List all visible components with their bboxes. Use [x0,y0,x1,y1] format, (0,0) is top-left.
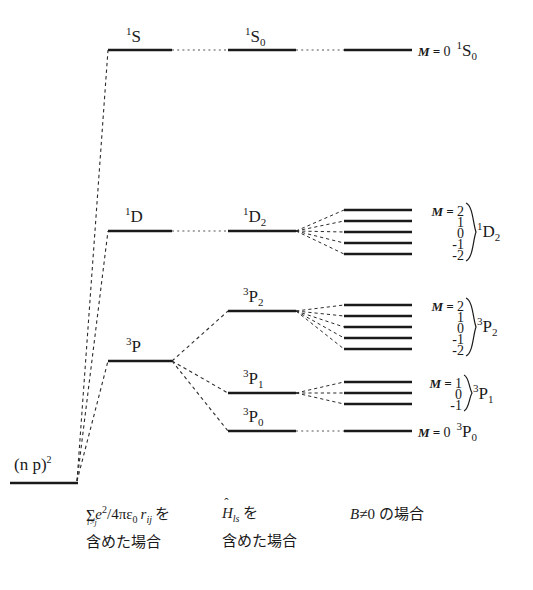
zeeman-fan-1D2-M1 [296,221,344,231]
energy-level-lines [10,50,412,483]
coulomb-r-sub: ij [146,514,152,525]
fine-label-3P1: 3P1 [243,368,263,390]
magnetic-field-B: B [350,506,359,522]
zeeman-1S0-M-prefix: M = [418,44,443,59]
ground-config-exponent: 2 [47,454,52,465]
zeeman-group-label-3P1: 3P1 [473,383,493,405]
zeeman-mcolumn-3P1: M = 1 0 -1 [396,375,462,408]
splitting-line-3P-to-3P2 [172,311,228,361]
hat-accent-icon: ˆ [222,494,231,513]
zeeman-3P2-M-prefix: M = [432,299,457,314]
correlation-dashed-lines [77,50,228,481]
fine-label-1D2: 1D2 [243,206,266,228]
zeeman-1D2-M-value-4: -2 [452,248,464,263]
zeeman-3P1-term-letter: P [479,384,488,403]
term-1S-letter: S [132,27,141,46]
term-label-1D: 1D [125,206,143,225]
zeeman-fan-lines [296,210,344,404]
term-3P-letter: P [132,337,141,356]
zeeman-fan-1D2-M-1 [296,231,344,243]
fine-3P0-letter: P [249,407,258,426]
spin-orbit-caption: ˆHls を 含めた場合 [222,503,297,552]
term-1D-letter: D [131,207,143,226]
splitting-line-3P-to-3P1 [172,361,228,393]
fine-1D2-letter: D [249,207,261,226]
spin-orbit-caption-line1: ˆHls を [222,503,297,527]
spin-orbit-caption-line2: 含めた場合 [222,531,297,553]
zeeman-fan-3P1-M-1 [296,393,344,404]
zeeman-3P2-term-letter: P [483,317,492,336]
zeeman-3P2-M-value-4: -2 [452,343,464,358]
zeeman-mcolumn-1D2: M = 2 1 0 -1 -2 [398,203,464,258]
coulomb-caption-line1: Σi>j e2/4πε0 rij を [86,503,170,528]
coulomb-frac: /4 [107,506,119,522]
zeeman-3P0-M-value: 0 [443,425,450,440]
splitting-line-3P-to-3P0 [172,361,228,431]
zeeman-3P0-M-prefix: M = [418,425,443,440]
brace-3P2 [465,297,477,357]
zeeman-3P0-term-J: 0 [471,431,477,443]
ground-config-text: (n p) [14,455,47,474]
fine-1S0-letter: S [251,27,260,46]
spin-orbit-particle-wo: を [243,505,258,521]
magnetic-field-caption: B≠0 の場合 [350,504,424,526]
fine-3P0-J: 0 [258,416,264,428]
zeeman-fan-3P2-M-2 [296,311,344,349]
hamiltonian-symbol: ˆH [222,503,233,525]
hamiltonian-subscript: ls [233,513,240,524]
zeeman-1S0-M-value: 0 [443,44,450,59]
fine-label-3P2: 3P2 [243,286,263,308]
zeeman-fan-3P2-M2 [296,305,344,311]
magnetic-field-zero: 0 [367,506,375,522]
fine-3P2-letter: P [249,287,258,306]
term-label-1S: 1S [126,26,141,45]
zeeman-label-1S0: M = 01S0 [418,40,477,62]
coulomb-caption-line2: 含めた場合 [86,532,170,554]
fine-3P1-letter: P [249,369,258,388]
ground-configuration-label: (n p)2 [14,455,52,473]
zeeman-1S0-term-J: 0 [471,50,477,62]
magnetic-field-caption-line1: B≠0 の場合 [350,504,424,526]
coulomb-epsilon-sub: 0 [133,514,138,525]
fine-3P1-J: 1 [258,378,264,390]
fine-1S0-J: 0 [260,36,266,48]
zeeman-3P1-M-value-2: -1 [450,398,462,413]
brace-3P1 [463,374,473,412]
correlation-line-ground-to-1S [77,50,108,481]
zeeman-3P2-term-J: 2 [492,326,498,338]
term-label-3P: 3P [126,336,141,355]
fine-label-3P0: 3P0 [243,406,263,428]
summation-symbol: Σi>j [86,504,95,528]
zeeman-fan-1D2-M2 [296,210,344,231]
zeeman-3P1-M-prefix: M = [430,376,455,391]
summation-index: i>j [87,517,97,529]
magnetic-field-rest: の場合 [375,506,424,522]
zeeman-fan-3P1-M1 [296,382,344,393]
zeeman-1D2-term-letter: D [483,222,495,241]
zeeman-group-label-3P2: 3P2 [477,316,497,338]
zeeman-fan-1D2-M0 [296,231,344,232]
fine-label-1S0: 1S0 [245,26,265,48]
zeeman-mcolumn-3P2: M = 2 1 0 -1 -2 [398,298,464,353]
coulomb-caption: Σi>j e2/4πε0 rij を 含めた場合 [86,503,170,553]
fine-3P2-J: 2 [258,296,264,308]
zeeman-group-label-1D2: 1D2 [477,221,500,243]
zeeman-fan-3P2-M-1 [296,311,344,338]
zeeman-1D2-term-J: 2 [495,231,501,243]
zeeman-1D2-M-prefix: M = [432,204,457,219]
zeeman-fan-1D2-M-2 [296,231,344,254]
coulomb-particle-wo: を [155,506,170,522]
brace-1D2 [465,202,477,262]
fine-1D2-J: 2 [261,216,267,228]
zeeman-3P1-term-J: 1 [488,393,494,405]
energy-level-diagram-svg [0,0,533,590]
zeeman-label-3P0: M = 03P0 [418,421,477,443]
